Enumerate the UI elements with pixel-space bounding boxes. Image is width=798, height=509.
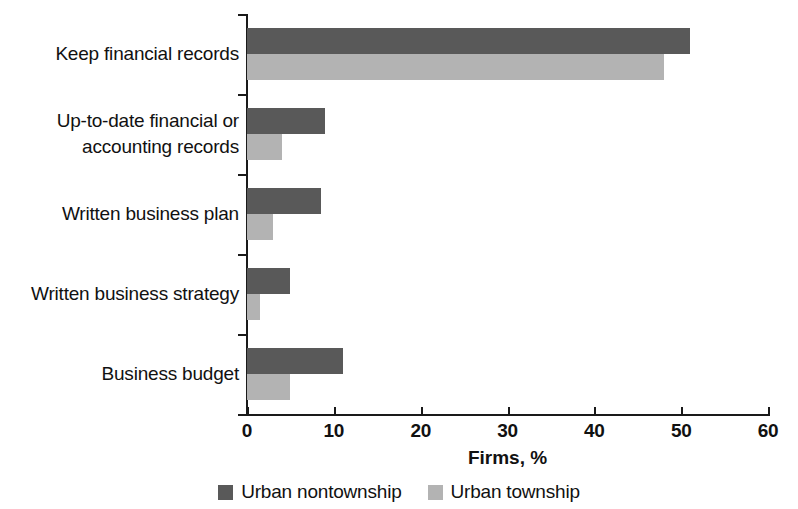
x-axis-tick xyxy=(421,407,423,416)
bar xyxy=(247,214,273,240)
y-axis-tick xyxy=(238,14,247,16)
y-axis-category-label: Written business plan xyxy=(0,201,239,227)
chart-figure: Keep financial recordsUp-to-date financi… xyxy=(0,0,798,509)
x-axis-tick-label: 20 xyxy=(391,420,451,442)
legend-item: Urban nontownship xyxy=(218,481,401,503)
x-axis-tick-label: 30 xyxy=(478,420,538,442)
x-axis-tick-label: 40 xyxy=(564,420,624,442)
bar xyxy=(247,134,282,160)
y-axis-category-label: Up-to-date financial oraccounting record… xyxy=(0,108,239,160)
bar-group xyxy=(247,254,768,334)
legend-swatch-icon xyxy=(428,485,443,500)
y-axis-category-label-line: Business budget xyxy=(0,361,239,387)
legend-label: Urban township xyxy=(451,481,580,503)
bar xyxy=(247,28,690,54)
bar-group xyxy=(247,14,768,94)
y-axis-tick xyxy=(238,414,247,416)
x-axis-tick-label: 10 xyxy=(304,420,364,442)
y-axis-category-label-line: Written business strategy xyxy=(0,281,239,307)
y-axis-category-label: Business budget xyxy=(0,361,239,387)
legend-swatch-icon xyxy=(218,485,233,500)
chart-legend: Urban nontownshipUrban township xyxy=(0,481,798,503)
y-axis-tick xyxy=(238,174,247,176)
y-axis-category-label-line: Up-to-date financial or xyxy=(0,108,239,134)
x-axis-tick-label: 60 xyxy=(738,420,798,442)
y-axis-category-label: Keep financial records xyxy=(0,41,239,67)
x-axis-tick xyxy=(768,407,770,416)
bar xyxy=(247,348,343,374)
bar xyxy=(247,374,290,400)
x-axis-title: Firms, % xyxy=(247,447,768,469)
bar-group xyxy=(247,334,768,414)
x-axis-tick-label: 0 xyxy=(217,420,277,442)
x-axis-tick-label: 50 xyxy=(651,420,711,442)
plot-area xyxy=(247,14,768,414)
y-axis-category-label: Written business strategy xyxy=(0,281,239,307)
bar xyxy=(247,188,321,214)
bar-group xyxy=(247,174,768,254)
x-axis-tick xyxy=(334,407,336,416)
y-axis-tick xyxy=(238,94,247,96)
y-axis-category-label-line: Written business plan xyxy=(0,201,239,227)
bar xyxy=(247,268,290,294)
y-axis-category-label-line: Keep financial records xyxy=(0,41,239,67)
x-axis-tick xyxy=(508,407,510,416)
bar xyxy=(247,294,260,320)
bar xyxy=(247,54,664,80)
y-axis-category-label-line: accounting records xyxy=(0,134,239,160)
y-axis-tick xyxy=(238,254,247,256)
x-axis-tick xyxy=(594,407,596,416)
x-axis-tick xyxy=(247,407,249,416)
legend-item: Urban township xyxy=(428,481,580,503)
bar-group xyxy=(247,94,768,174)
bar xyxy=(247,108,325,134)
y-axis-tick xyxy=(238,334,247,336)
x-axis-tick xyxy=(681,407,683,416)
legend-label: Urban nontownship xyxy=(241,481,401,503)
